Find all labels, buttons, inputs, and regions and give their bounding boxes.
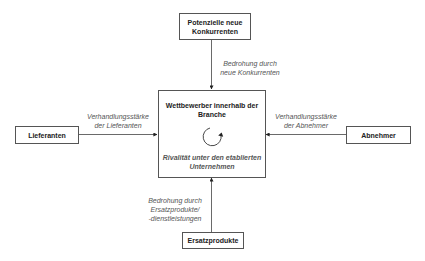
box-potential-entrants-line1: Potenzielle neue — [188, 18, 243, 27]
label-threat-new-entrants: Bedrohung durch neue Konkurrenten — [215, 59, 285, 77]
box-buyers-label: Abnehmer — [361, 131, 396, 140]
label-threat-substitutes-line2: Ersatzprodukte/ — [142, 205, 208, 214]
circular-arrow-icon — [201, 125, 225, 149]
label-threat-substitutes: Bedrohung durch Ersatzprodukte/ -dienstl… — [142, 196, 208, 223]
box-substitutes: Ersatzprodukte — [182, 232, 244, 249]
label-threat-new-entrants-line2: neue Konkurrenten — [215, 68, 285, 77]
box-buyers: Abnehmer — [346, 126, 411, 144]
center-subtitle-line1: Rivalität unter den etablierten — [159, 153, 265, 162]
center-title-line1: Wettbewerber innerhalb der — [159, 101, 265, 110]
label-threat-substitutes-line3: -dienstleistungen — [142, 214, 208, 223]
label-threat-substitutes-line1: Bedrohung durch — [142, 196, 208, 205]
center-subtitle: Rivalität unter den etablierten Unterneh… — [159, 153, 265, 171]
box-potential-entrants: Potenzielle neue Konkurrenten — [179, 13, 251, 40]
center-title-line2: Branche — [159, 110, 265, 119]
center-title: Wettbewerber innerhalb der Branche — [159, 101, 265, 119]
label-supplier-power: Verhandlungsstärke der Lieferanten — [82, 112, 154, 130]
label-threat-new-entrants-line1: Bedrohung durch — [215, 59, 285, 68]
label-supplier-power-line1: Verhandlungsstärke — [82, 112, 154, 121]
box-potential-entrants-line2: Konkurrenten — [192, 27, 238, 36]
box-suppliers: Lieferanten — [15, 126, 79, 144]
center-subtitle-line2: Unternehmen — [159, 162, 265, 171]
box-suppliers-label: Lieferanten — [28, 131, 66, 140]
label-buyer-power-line1: Verhandlungsstärke — [270, 112, 342, 121]
box-industry-rivalry: Wettbewerber innerhalb der Branche Rival… — [158, 90, 266, 178]
label-buyer-power: Verhandlungsstärke der Abnehmer — [270, 112, 342, 130]
box-substitutes-label: Ersatzprodukte — [188, 236, 239, 245]
label-buyer-power-line2: der Abnehmer — [270, 121, 342, 130]
label-supplier-power-line2: der Lieferanten — [82, 121, 154, 130]
